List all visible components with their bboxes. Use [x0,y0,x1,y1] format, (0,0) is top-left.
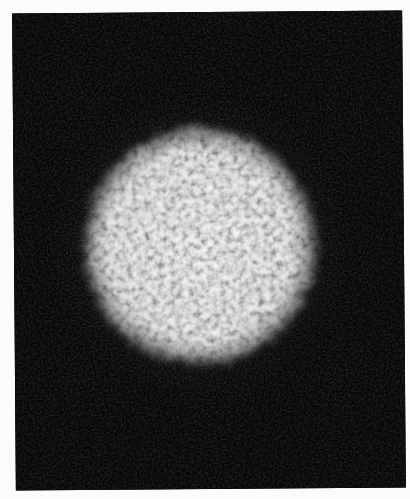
speckle-disc [53,101,355,403]
speckle-photograph [12,10,406,490]
speckle-image [12,10,406,490]
